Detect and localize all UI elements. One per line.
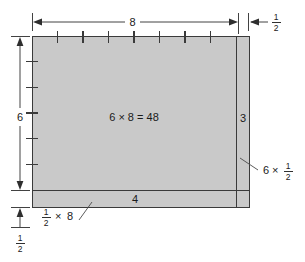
halfh-arrow xyxy=(17,208,24,217)
bottom-callout-denominator: 2 xyxy=(44,218,49,228)
right-strip-label: 3 xyxy=(240,112,246,124)
bottom-strip-label: 4 xyxy=(132,193,138,205)
right-callout-numerator: 1 xyxy=(286,161,291,171)
left-dimension-label: 6 xyxy=(17,111,23,123)
bottom-strip-rect xyxy=(32,190,250,208)
right-callout-whole: 6 xyxy=(263,164,269,176)
halfw-numerator: 1 xyxy=(274,12,279,22)
main-area-label: 6 × 8 = 48 xyxy=(109,111,159,123)
bottom-left-dimension-half: 1 2 xyxy=(11,208,30,255)
left-arrow-bottom xyxy=(17,181,24,190)
bottom-callout-whole: 8 xyxy=(67,210,73,222)
halfh-denominator: 2 xyxy=(18,244,23,254)
bottom-callout-times: × xyxy=(55,210,61,222)
halfw-arrow xyxy=(250,19,259,26)
halfw-denominator: 2 xyxy=(274,23,279,33)
bottom-callout-numerator: 1 xyxy=(44,207,49,217)
right-callout-denominator: 2 xyxy=(286,172,291,182)
figure-root: 8 1 2 6 1 xyxy=(0,0,305,262)
top-dimension-8: 8 xyxy=(33,13,239,34)
area-model-diagram: 8 1 2 6 1 xyxy=(0,0,305,262)
right-callout-times: × xyxy=(272,164,278,176)
left-arrow-top xyxy=(17,37,24,46)
top-right-dimension-half: 1 2 xyxy=(249,12,281,33)
top-dimension-label: 8 xyxy=(129,16,135,28)
top-arrow-left xyxy=(33,19,42,26)
top-arrow-right xyxy=(229,19,238,26)
halfh-numerator: 1 xyxy=(18,233,23,243)
